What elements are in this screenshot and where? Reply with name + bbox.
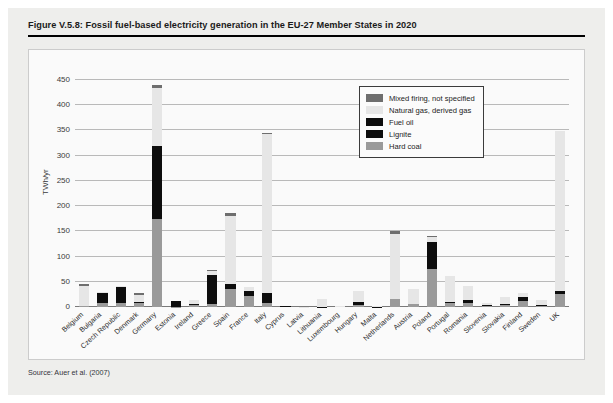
gridline: 400 xyxy=(75,104,569,105)
legend-item-mixed_firing: Mixed firing, not specified xyxy=(366,92,475,104)
bar-segment-natural_gas xyxy=(317,299,327,306)
bar-segment-hard_coal xyxy=(79,306,89,307)
bar-slovenia: Slovenia xyxy=(482,303,492,307)
bar-estonia: Estonia xyxy=(171,301,181,307)
bar-segment-lignite xyxy=(207,275,217,304)
bar-segment-natural_gas xyxy=(79,286,89,306)
gridline: 150 xyxy=(75,230,569,231)
bar-germany: Germany xyxy=(152,85,162,307)
bar-finland: Finland xyxy=(518,293,528,307)
legend-swatch-fuel_oil xyxy=(366,118,383,126)
y-tick-label: 400 xyxy=(57,100,70,109)
bar-segment-natural_gas xyxy=(445,276,455,302)
bar-segment-hard_coal xyxy=(262,303,272,307)
gridline: 100 xyxy=(75,256,569,257)
title-divider xyxy=(28,35,585,37)
bar-segment-fuel_oil xyxy=(262,293,272,303)
bar-czech-republic: Czech Republic xyxy=(116,286,126,307)
figure-title: Figure V.5.8: Fossil fuel-based electric… xyxy=(28,20,585,30)
legend-item-fuel_oil: Fuel oil xyxy=(366,116,475,128)
bar-sweden: Sweden xyxy=(536,300,546,307)
bar-segment-natural_gas xyxy=(555,131,565,291)
bar-portugal: Portugal xyxy=(445,276,455,307)
bar-uk: UK xyxy=(555,131,565,307)
bar-austria: Austria xyxy=(408,289,418,307)
bar-segment-natural_gas xyxy=(299,307,309,308)
bar-segment-hard_coal xyxy=(536,306,546,308)
bar-segment-lignite xyxy=(427,242,437,268)
bar-segment-hard_coal xyxy=(171,307,181,308)
bar-segment-fuel_oil xyxy=(280,306,290,307)
figure-container: Figure V.5.8: Fossil fuel-based electric… xyxy=(8,8,605,395)
bar-latvia: Latvia xyxy=(299,307,309,308)
bar-segment-hard_coal xyxy=(152,219,162,307)
bar-malta: Malta xyxy=(372,306,382,308)
legend-item-hard_coal: Hard coal xyxy=(366,140,475,152)
bar-segment-lignite xyxy=(116,287,126,303)
bar-segment-hard_coal xyxy=(116,303,126,307)
legend-label: Lignite xyxy=(389,130,411,139)
bar-denmark: Denmark xyxy=(134,293,144,307)
x-tick-label: Greece xyxy=(190,310,214,332)
bar-segment-natural_gas xyxy=(463,286,473,300)
legend-label: Mixed firing, not specified xyxy=(389,94,475,103)
bar-segment-hard_coal xyxy=(500,305,510,307)
bar-segment-hard_coal xyxy=(408,304,418,307)
x-tick-label: Cyprus xyxy=(263,310,286,332)
legend-swatch-lignite xyxy=(366,130,383,138)
bar-segment-hard_coal xyxy=(390,299,400,307)
bar-segment-natural_gas xyxy=(500,297,510,304)
bar-segment-hard_coal xyxy=(445,303,455,307)
bar-segment-lignite xyxy=(152,146,162,219)
bar-segment-natural_gas xyxy=(134,295,144,302)
bar-poland: Poland xyxy=(427,236,437,307)
legend-label: Natural gas, derived gas xyxy=(389,106,471,115)
bar-segment-fuel_oil xyxy=(372,307,382,308)
bar-segment-natural_gas xyxy=(408,289,418,305)
bar-france: France xyxy=(244,287,254,307)
bar-segment-hard_coal xyxy=(427,269,437,307)
bar-greece: Greece xyxy=(207,270,217,307)
gridline: 300 xyxy=(75,155,569,156)
bar-segment-fuel_oil xyxy=(317,307,327,308)
y-tick-label: 450 xyxy=(57,75,70,84)
bar-segment-natural_gas xyxy=(225,216,235,284)
y-tick-label: 100 xyxy=(57,251,70,260)
chart-panel: TWh/yr 050100150200250300350400450 Belgi… xyxy=(28,49,585,360)
source-note: Source: Auer et al. (2007) xyxy=(28,368,110,377)
bar-segment-hard_coal xyxy=(353,305,363,307)
y-tick-label: 200 xyxy=(57,201,70,210)
bar-segment-hard_coal xyxy=(189,305,199,307)
chart-legend: Mixed firing, not specifiedNatural gas, … xyxy=(359,86,484,158)
bar-segment-hard_coal xyxy=(207,304,217,307)
y-tick-label: 300 xyxy=(57,150,70,159)
y-tick-label: 250 xyxy=(57,175,70,184)
bar-segment-natural_gas xyxy=(335,306,345,308)
gridline: 250 xyxy=(75,180,569,181)
legend-swatch-hard_coal xyxy=(366,142,383,150)
plot-area: 050100150200250300350400450 BelgiumBulga… xyxy=(75,80,569,307)
x-tick-label: Austria xyxy=(392,310,415,332)
bar-bulgaria: Bulgaria xyxy=(97,292,107,307)
bar-segment-lignite xyxy=(97,293,107,303)
bar-segment-natural_gas xyxy=(353,291,363,302)
bar-segment-hard_coal xyxy=(134,303,144,307)
y-tick-label: 0 xyxy=(66,302,70,311)
legend-item-lignite: Lignite xyxy=(366,128,475,140)
bar-segment-hard_coal xyxy=(518,301,528,307)
y-axis-label: TWh/yr xyxy=(41,169,50,195)
bar-netherlands: Netherlands xyxy=(390,231,400,307)
bar-cyprus: Cyprus xyxy=(280,306,290,307)
x-tick-label: France xyxy=(227,310,250,332)
bar-segment-natural_gas xyxy=(152,88,162,146)
bar-hungary: Hungary xyxy=(353,291,363,307)
bar-segment-natural_gas xyxy=(390,234,400,299)
bar-segment-hard_coal xyxy=(244,296,254,307)
x-tick-label: UK xyxy=(547,310,560,323)
figure-header: Figure V.5.8: Fossil fuel-based electric… xyxy=(28,20,585,37)
gridline: 350 xyxy=(75,129,569,130)
bar-spain: Spain xyxy=(225,213,235,307)
bar-luxembourg: Luxembourg xyxy=(335,306,345,308)
legend-label: Fuel oil xyxy=(389,118,413,127)
y-tick-label: 50 xyxy=(61,276,70,285)
